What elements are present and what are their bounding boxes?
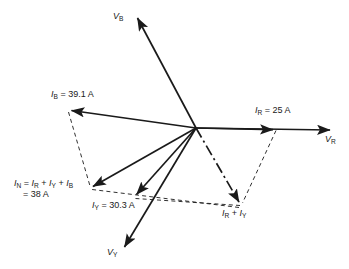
phasor-ir-plus-iy (196, 128, 239, 202)
label-in: IN = IR + IY + IB= 38 A (14, 178, 73, 201)
phasor-vb (138, 18, 197, 128)
label-ib: IB = 39.1 A (51, 89, 94, 100)
dashed-ib-to-in (69, 112, 91, 186)
phasor-in (93, 128, 196, 187)
label-vy: VY (107, 247, 117, 258)
label-vb: VB (113, 11, 123, 22)
phasor-diagram-canvas (0, 0, 349, 269)
label-vr: VR (325, 134, 336, 145)
label-iy: IY = 30.3 A (92, 200, 135, 211)
phasor-iy (137, 128, 197, 195)
label-ir: IR = 25 A (255, 105, 291, 116)
construction-lines (69, 112, 277, 208)
phasor-vy (125, 128, 197, 247)
dashed-ir-to-sum (243, 131, 277, 204)
label-ir-plus-iy: IR + IY (222, 208, 246, 219)
phasor-diagram-figure: IB = 39.1 A IR = 25 A VR VB VY IN = IR +… (0, 0, 349, 269)
phasor-ib (72, 111, 197, 129)
current-phasors (72, 111, 274, 195)
